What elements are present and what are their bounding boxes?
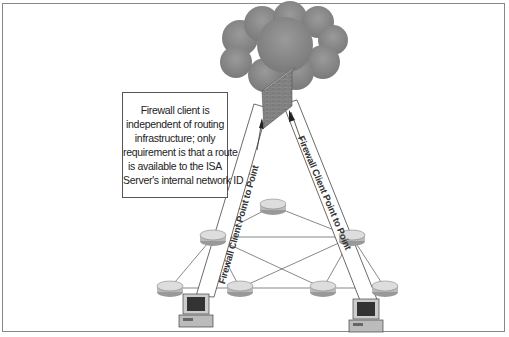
router-icon xyxy=(310,281,336,297)
callout-line: is available to the ISA xyxy=(123,159,227,173)
callout-line: independent of routing xyxy=(123,117,227,131)
client-computer-icon xyxy=(179,294,213,327)
router-icon xyxy=(372,281,398,297)
callout-line: Server's internal network ID xyxy=(123,173,227,187)
callout-note: Firewall client is independent of routin… xyxy=(122,92,228,198)
client-computer-icon xyxy=(349,299,383,332)
router-icon xyxy=(200,230,226,246)
callout-line: infrastructure; only xyxy=(123,131,227,145)
callout-line: requirement is that a route xyxy=(123,145,227,159)
router-icon xyxy=(157,281,183,297)
router-icon xyxy=(227,281,253,297)
router-icon xyxy=(260,199,286,215)
callout-line: Firewall client is xyxy=(123,103,227,117)
